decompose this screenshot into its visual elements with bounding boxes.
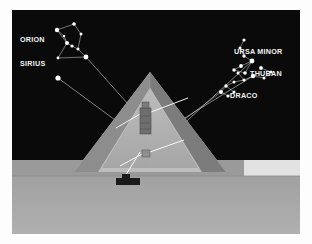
star xyxy=(57,57,60,60)
star xyxy=(84,55,89,60)
star xyxy=(55,75,60,80)
star xyxy=(250,59,255,64)
star xyxy=(72,22,76,26)
star xyxy=(224,84,227,87)
star xyxy=(233,81,236,84)
label-ursa-minor: URSA MINOR xyxy=(234,47,283,56)
ground-light-strip xyxy=(244,160,300,176)
label-orion: ORION xyxy=(20,35,45,44)
star xyxy=(242,78,245,81)
queens-chamber-group xyxy=(142,150,150,157)
label-thuban: THUBAN xyxy=(250,69,282,78)
star xyxy=(232,68,235,71)
star xyxy=(219,90,223,94)
constellation-sirius xyxy=(55,75,60,80)
chamber-cap xyxy=(142,102,149,108)
pyramid-entrance-block xyxy=(116,178,140,185)
star xyxy=(70,44,73,47)
diagram-canvas: ORIONSIRIUSURSA MINORTHUBANDRACO xyxy=(12,10,300,234)
star xyxy=(80,33,83,36)
kings-chamber xyxy=(140,108,151,134)
pyramid-entrance-riser xyxy=(122,174,130,179)
star xyxy=(65,41,69,45)
star xyxy=(243,71,247,75)
night-sky-scene: ORIONSIRIUSURSA MINORTHUBANDRACO xyxy=(12,10,300,234)
star xyxy=(242,38,245,41)
star xyxy=(237,72,240,75)
star xyxy=(55,28,59,32)
label-draco: DRACO xyxy=(230,91,258,100)
star xyxy=(63,35,65,37)
label-sirius: SIRIUS xyxy=(20,59,45,68)
astronomy-diagram-figure: ORIONSIRIUSURSA MINORTHUBANDRACO xyxy=(0,0,312,244)
star xyxy=(77,48,80,51)
queens-chamber xyxy=(142,150,150,157)
star xyxy=(239,64,243,68)
